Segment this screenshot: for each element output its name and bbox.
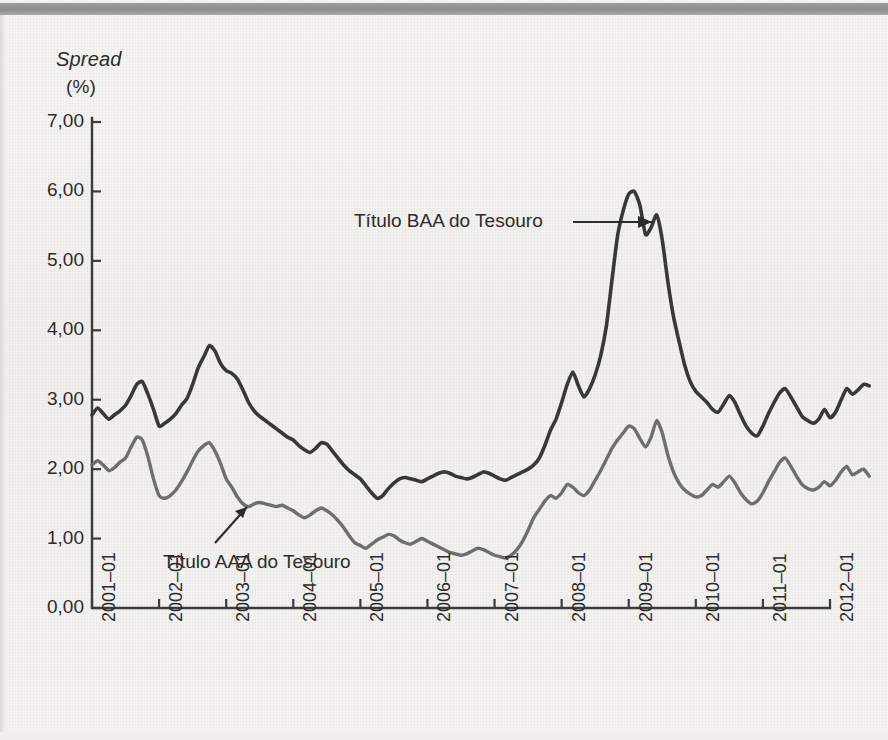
annotation-label-baa: Título BAA do Tesouro: [354, 210, 543, 232]
y-axis-tick-label: 6,00: [24, 179, 84, 201]
x-axis-tick-label: 2009–01: [636, 552, 657, 622]
x-axis-tick-label: 2001–01: [99, 552, 120, 622]
x-axis-tick-label: 2005–01: [367, 552, 388, 622]
x-axis-tick-label: 2007–01: [502, 552, 523, 622]
x-axis-tick-label: 2008–01: [569, 552, 590, 622]
y-axis-tick-label: 7,00: [24, 110, 84, 132]
x-axis-tick-label: 2006–01: [434, 552, 455, 622]
y-axis-tick-label: 4,00: [24, 318, 84, 340]
y-axis-title-line2: (%): [66, 76, 96, 98]
arrow-up-right-head: [235, 507, 247, 518]
x-axis-tick-label: 2011–01: [770, 553, 791, 622]
y-axis-tick-label: 3,00: [24, 388, 84, 410]
x-axis-tick-label: 2010–01: [703, 552, 724, 622]
y-axis-title-line1: Spread: [56, 48, 122, 71]
annotation-label-aaa: Título AAA do Tesouro: [163, 551, 351, 573]
series-line: [92, 191, 869, 498]
y-axis-tick-label: 5,00: [24, 249, 84, 271]
y-axis-tick-label: 2,00: [24, 457, 84, 479]
data-series: [92, 191, 869, 558]
y-axis-tick-label: 0,00: [24, 596, 84, 618]
x-axis-tick-label: 2012–01: [837, 552, 858, 622]
y-axis-tick-label: 1,00: [24, 527, 84, 549]
spread-line-chart: [0, 0, 888, 740]
axes: [92, 118, 830, 608]
series-line: [92, 421, 869, 558]
